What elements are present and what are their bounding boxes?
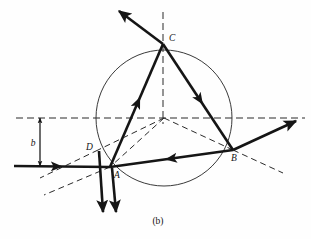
figure-caption: (b) [152,216,163,227]
exit-ray-D1 [99,151,103,212]
ray-paths [14,11,296,212]
point-labels: ABCD [85,33,237,180]
point-label-b: B [231,153,237,163]
impact-parameter-indicator: b [31,118,40,166]
radius-center-to-D [98,118,164,150]
exit-ray-C [119,11,163,44]
normal-extension-B [233,150,283,173]
exit-ray-B [233,121,296,150]
point-label-c: C [169,33,176,43]
point-label-a: A [113,170,120,180]
ray-A-to-C [110,44,163,167]
normal-extension-D [40,150,98,178]
figure-container: b ABCD (b) [0,0,311,239]
dashed-construction-lines [40,118,283,195]
optics-ray-diagram: b ABCD (b) [0,0,311,239]
ray-C-to-B [163,44,233,150]
ray-C-to-B-direction-arrow [199,99,200,100]
incident-ray [14,166,110,167]
point-label-d: D [85,142,93,152]
impact-parameter-label: b [31,138,36,148]
